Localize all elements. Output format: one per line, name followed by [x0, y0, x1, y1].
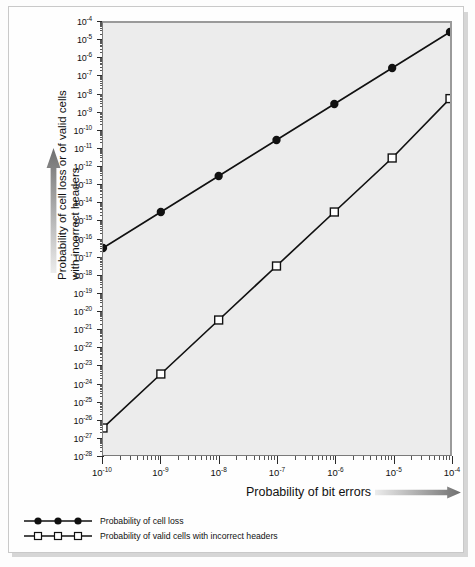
legend-marker-filled-circle-icon	[22, 515, 94, 527]
data-point-filled-circle	[272, 136, 280, 144]
data-point-open-square	[157, 370, 165, 378]
x-axis-minor-tick	[376, 456, 377, 460]
x-axis-minor-tick	[147, 456, 148, 460]
x-axis-minor-tick	[434, 456, 435, 460]
x-axis-minor-tick	[388, 456, 389, 460]
x-axis-title-group: Probability of bit errors	[246, 481, 461, 503]
page-shadow-bottom	[12, 553, 468, 557]
legend-item-cell-loss: Probability of cell loss	[22, 513, 352, 528]
x-axis-minor-tick	[155, 456, 156, 460]
plot-svg	[103, 23, 450, 455]
legend-label-cell-loss: Probability of cell loss	[100, 516, 184, 526]
x-axis-minor-tick	[391, 456, 392, 460]
x-axis-tick-label: 10-7	[269, 466, 285, 478]
x-axis-minor-tick	[370, 456, 371, 460]
x-axis-minor-tick	[318, 456, 319, 460]
y-axis-title-group: Probability of cell loss or of valid cel…	[22, 130, 92, 430]
x-axis-minor-tick	[213, 456, 214, 460]
x-axis-minor-tick	[385, 456, 386, 460]
y-axis-title: Probability of cell loss or of valid cel…	[56, 30, 82, 280]
y-axis-tick-label: 10-4	[77, 15, 92, 27]
data-point-filled-circle	[388, 64, 396, 72]
legend-marker-open-square-icon	[22, 530, 94, 542]
x-axis-gradient-arrow-icon	[375, 486, 461, 499]
x-axis-tick-label: 10-4	[444, 466, 460, 478]
x-axis-minor-tick	[271, 456, 272, 460]
x-axis-minor-tick	[120, 456, 121, 460]
x-axis-ticks	[102, 456, 452, 465]
x-axis-tick	[160, 456, 161, 464]
data-point-open-square	[388, 154, 396, 162]
data-point-filled-circle	[330, 100, 338, 108]
x-axis-tick-label: 10-5	[385, 466, 401, 478]
data-point-filled-circle	[215, 172, 223, 180]
page-shadow-right	[464, 12, 468, 557]
x-axis-minor-tick	[137, 456, 138, 460]
x-axis-tick	[394, 456, 395, 464]
data-point-open-square	[103, 424, 107, 432]
x-axis-minor-tick	[363, 456, 364, 460]
x-axis-minor-tick	[439, 456, 440, 460]
x-axis-minor-tick	[178, 456, 179, 460]
x-axis-tick	[102, 456, 103, 464]
y-axis-tick-label: 10-28	[74, 450, 92, 462]
x-axis-minor-tick	[446, 456, 447, 460]
data-point-open-square	[273, 262, 281, 270]
x-axis-minor-tick	[381, 456, 382, 460]
x-axis-title: Probability of bit errors	[246, 485, 371, 499]
plot-area	[102, 21, 452, 456]
x-axis-minor-tick	[295, 456, 296, 460]
x-axis-minor-tick	[305, 456, 306, 460]
x-axis-minor-tick	[158, 456, 159, 460]
x-axis-minor-tick	[333, 456, 334, 460]
x-axis-minor-tick	[143, 456, 144, 460]
legend: Probability of cell loss Probability of …	[22, 513, 352, 547]
x-axis-minor-tick	[353, 456, 354, 460]
x-axis-minor-tick	[130, 456, 131, 460]
x-axis-minor-tick	[216, 456, 217, 460]
x-axis-tick	[335, 456, 336, 464]
x-axis-minor-tick	[151, 456, 152, 460]
x-axis-minor-tick	[330, 456, 331, 460]
x-axis-minor-tick	[429, 456, 430, 460]
x-axis-tick	[452, 456, 453, 464]
data-point-filled-circle	[157, 208, 165, 216]
data-point-open-square	[446, 95, 450, 103]
x-axis-minor-tick	[201, 456, 202, 460]
x-axis-minor-tick	[188, 456, 189, 460]
x-axis-minor-tick	[322, 456, 323, 460]
x-axis-minor-tick	[259, 456, 260, 460]
x-axis-minor-tick	[411, 456, 412, 460]
x-axis-minor-tick	[443, 456, 444, 460]
data-point-open-square	[215, 316, 223, 324]
x-axis-minor-tick	[236, 456, 237, 460]
x-axis-labels: 10-1010-910-810-710-610-510-4	[102, 466, 462, 482]
x-axis-minor-tick	[274, 456, 275, 460]
x-axis-minor-tick	[421, 456, 422, 460]
x-axis-tick-label: 10-10	[92, 466, 112, 478]
x-axis-tick-label: 10-9	[152, 466, 168, 478]
x-axis-tick-label: 10-6	[327, 466, 343, 478]
legend-item-incorrect-headers: Probability of valid cells with incorrec…	[22, 528, 352, 543]
x-axis-minor-tick	[195, 456, 196, 460]
x-axis-minor-tick	[264, 456, 265, 460]
x-axis-minor-tick	[246, 456, 247, 460]
x-axis-minor-tick	[312, 456, 313, 460]
x-axis-minor-tick	[449, 456, 450, 460]
legend-label-incorrect-headers: Probability of valid cells with incorrec…	[100, 531, 278, 541]
x-axis-minor-tick	[210, 456, 211, 460]
x-axis-minor-tick	[206, 456, 207, 460]
x-axis-tick	[277, 456, 278, 464]
x-axis-minor-tick	[268, 456, 269, 460]
x-axis-tick	[219, 456, 220, 464]
data-point-open-square	[330, 208, 338, 216]
chart-page: 10-410-510-610-710-810-910-1010-1110-121…	[0, 0, 475, 567]
x-axis-minor-tick	[326, 456, 327, 460]
x-axis-tick-label: 10-8	[210, 466, 226, 478]
x-axis-minor-tick	[254, 456, 255, 460]
y-axis-tick-label: 10-27	[74, 432, 92, 444]
